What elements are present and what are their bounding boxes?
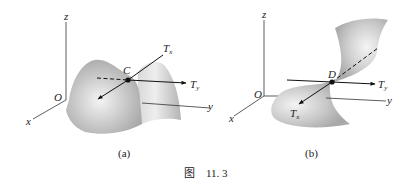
- point-label-d: D: [327, 68, 336, 80]
- figure-caption: 图 11. 3: [184, 167, 228, 180]
- panel-label-a: (a): [118, 147, 131, 160]
- y-label-a: y: [207, 100, 213, 112]
- tangent-y-line-b: [287, 80, 332, 82]
- x-label-a: x: [25, 115, 31, 127]
- y-label-b: y: [386, 94, 392, 106]
- ty-label-b: Ty: [378, 78, 388, 92]
- surface-a-left-lobe: [66, 60, 142, 134]
- y-axis-b: [326, 98, 386, 101]
- point-d: [329, 79, 334, 84]
- origin-label-b: O: [254, 88, 262, 100]
- panel-a: z O x y C Tx Ty (a): [25, 10, 213, 160]
- surface-b-upper: [334, 18, 388, 82]
- panel-b: z O x y D Tx Ty (b): [228, 8, 392, 160]
- caption-number: 11. 3: [206, 167, 228, 179]
- x-label-b: x: [228, 112, 234, 124]
- z-label-b: z: [261, 8, 267, 20]
- surface-a-right-lobe: [138, 62, 181, 124]
- tangent-y-arrow-b: [332, 82, 375, 84]
- origin-label-a: O: [54, 91, 62, 103]
- point-c: [125, 77, 130, 82]
- caption-prefix: 图: [184, 167, 195, 180]
- panel-label-b: (b): [305, 147, 318, 160]
- ty-label-a: Ty: [190, 78, 200, 92]
- z-label-a: z: [63, 10, 69, 22]
- figure-11-3: z O x y C Tx Ty (a) z O x y D Tx: [0, 0, 411, 186]
- point-label-c: C: [123, 64, 131, 76]
- surface-b-lower: [271, 82, 350, 127]
- tx-label-a: Tx: [163, 42, 173, 56]
